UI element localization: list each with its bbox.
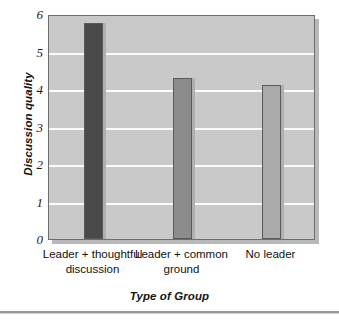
bar-1 xyxy=(173,78,192,239)
y-tick-label-2: 2 xyxy=(28,158,43,172)
bar-0 xyxy=(84,23,103,239)
x-category-label-1-line-1: ground xyxy=(123,262,241,277)
bar-chart-figure: Discussion quality 6 5 4 3 2 1 0 Leader … xyxy=(0,0,339,320)
figure-bottom-rule-light xyxy=(0,313,339,314)
y-tick-label-4: 4 xyxy=(28,83,43,97)
y-tick-label-6: 6 xyxy=(28,8,43,22)
x-category-label-2: No leader xyxy=(212,247,330,262)
x-category-label-2-line-0: No leader xyxy=(212,247,330,262)
y-tick-label-1: 1 xyxy=(28,196,43,210)
y-tick-label-0: 0 xyxy=(28,233,43,247)
y-tick-label-5: 5 xyxy=(28,46,43,60)
bar-2 xyxy=(262,85,281,239)
y-tick-label-3: 3 xyxy=(28,121,43,135)
plot-area xyxy=(48,15,315,240)
x-axis-title: Type of Group xyxy=(0,290,339,302)
